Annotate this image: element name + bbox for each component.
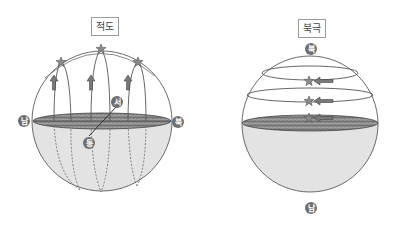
equator-sphere: 남 북 서 동 <box>18 44 184 192</box>
svg-text:북: 북 <box>308 44 316 54</box>
svg-text:서: 서 <box>114 97 121 107</box>
svg-text:동: 동 <box>86 139 94 148</box>
label-east: 동 <box>83 137 95 149</box>
arrow-up-icon <box>50 75 132 90</box>
star-icon <box>56 57 66 67</box>
svg-text:남: 남 <box>308 203 316 213</box>
svg-text:북: 북 <box>175 117 183 127</box>
label-south: 남 <box>18 115 30 127</box>
star-icon <box>304 96 314 106</box>
star-icon <box>96 44 106 54</box>
label-west: 서 <box>111 96 123 108</box>
label-north: 북 <box>172 116 184 128</box>
svg-text:남: 남 <box>21 116 29 126</box>
celestial-diagrams: 남 북 서 동 <box>0 0 393 231</box>
north-pole-sphere: 북 남 <box>242 43 378 214</box>
star-icon <box>304 76 314 86</box>
label-south: 남 <box>305 202 317 214</box>
label-north: 북 <box>305 43 317 55</box>
